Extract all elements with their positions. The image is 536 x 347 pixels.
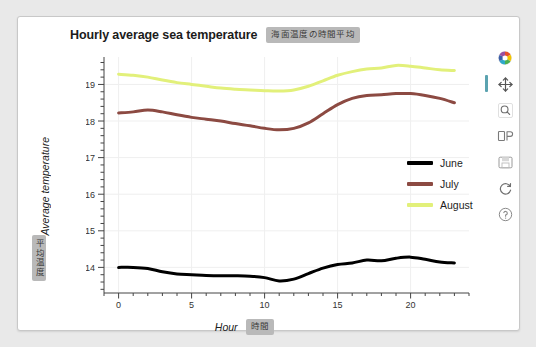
legend-swatch <box>407 161 433 165</box>
y-axis-title: Average temperature <box>39 137 51 235</box>
svg-text:15: 15 <box>333 300 343 309</box>
zoom-icon[interactable] <box>494 99 516 121</box>
screenshot-root: Hourly average sea temperature 海面温度の時間平均… <box>0 0 536 347</box>
chart-legend[interactable]: JuneJulyAugust <box>407 157 473 211</box>
series-line-august <box>119 65 455 91</box>
legend-label: June <box>440 157 463 169</box>
svg-text:5: 5 <box>189 300 194 309</box>
legend-item-july[interactable]: July <box>407 178 473 190</box>
svg-text:0: 0 <box>116 300 121 309</box>
active-tool-indicator <box>485 75 488 92</box>
legend-item-june[interactable]: June <box>407 157 473 169</box>
x-axis-title: Hour <box>215 321 238 333</box>
svg-text:14: 14 <box>86 263 95 273</box>
help-icon[interactable] <box>494 203 516 225</box>
svg-text:18: 18 <box>86 117 95 127</box>
reset-axes-icon[interactable] <box>494 177 516 199</box>
pan-icon[interactable] <box>494 73 516 95</box>
series-lines <box>119 65 455 281</box>
series-line-july <box>119 93 455 129</box>
svg-text:16: 16 <box>86 190 95 200</box>
y-axis-title-translation-wrap: 平均温度 <box>32 235 46 285</box>
x-axis-translation-badge: 時間 <box>246 319 275 335</box>
chart-card: Hourly average sea temperature 海面温度の時間平均… <box>17 16 520 331</box>
legend-item-august[interactable]: August <box>407 199 473 211</box>
title-translation-badge: 海面温度の時間平均 <box>266 27 360 43</box>
legend-label: August <box>440 199 473 211</box>
y-axis-title-wrap: Average temperature <box>36 137 54 235</box>
legend-label: July <box>440 178 459 190</box>
svg-text:15: 15 <box>86 226 95 236</box>
y-axis-translation-badge: 平均温度 <box>32 235 46 281</box>
chart-modebar[interactable] <box>492 47 518 225</box>
legend-swatch <box>407 203 433 207</box>
zoom-box-icon[interactable] <box>494 125 516 147</box>
legend-swatch <box>407 182 433 186</box>
svg-text:19: 19 <box>86 80 95 90</box>
chart-header: Hourly average sea temperature 海面温度の時間平均 <box>70 27 360 43</box>
svg-text:20: 20 <box>406 300 416 309</box>
save-image-icon[interactable] <box>494 151 516 173</box>
x-axis-title-wrap: Hour 時間 <box>18 319 471 335</box>
plotly-logo-icon[interactable] <box>494 47 516 69</box>
page-title: Hourly average sea temperature <box>70 28 257 42</box>
svg-text:17: 17 <box>86 153 95 163</box>
svg-text:10: 10 <box>260 300 270 309</box>
series-line-june <box>119 257 455 281</box>
